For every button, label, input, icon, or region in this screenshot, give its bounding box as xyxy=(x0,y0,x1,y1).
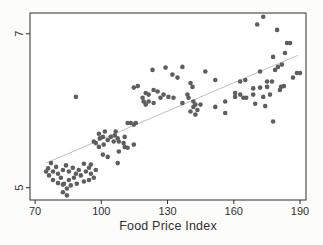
scatter-point xyxy=(71,165,76,170)
scatter-point xyxy=(74,172,79,177)
scatter-point xyxy=(265,79,270,84)
scatter-point xyxy=(49,161,54,166)
scatter-point xyxy=(213,78,218,83)
scatter-point xyxy=(273,68,278,73)
scatter-point xyxy=(82,162,87,167)
scatter-point xyxy=(61,190,66,195)
scatter-point xyxy=(143,102,148,107)
scatter-point xyxy=(255,22,260,27)
scatter-point xyxy=(261,95,266,100)
scatter-point xyxy=(132,85,137,90)
scatter-point xyxy=(67,178,72,183)
x-axis-title: Food Price Index xyxy=(30,219,306,233)
scatter-point xyxy=(271,55,276,60)
scatter-point xyxy=(82,179,87,184)
scatter-point xyxy=(166,95,171,100)
scatter-point xyxy=(278,88,283,93)
y-tick-label: 5 xyxy=(13,185,25,191)
scatter-point xyxy=(51,178,56,183)
scatter-point xyxy=(265,85,270,90)
scatter-point xyxy=(298,71,303,76)
scatter-point xyxy=(79,173,84,178)
scatter-point xyxy=(188,81,193,86)
scatter-point xyxy=(238,79,243,84)
scatter-point xyxy=(186,95,191,100)
scatter-point xyxy=(191,105,196,110)
scatter-point xyxy=(146,92,151,97)
scatter-point xyxy=(268,92,273,97)
scatter-point xyxy=(271,119,276,124)
scatter-point xyxy=(56,172,61,177)
scatter-point xyxy=(64,163,69,168)
scatter-point xyxy=(171,95,176,100)
scatter-point xyxy=(101,135,106,140)
scatter-point xyxy=(89,162,94,167)
scatter-point xyxy=(188,109,193,114)
scatter-point xyxy=(151,101,156,106)
scatter-point xyxy=(113,129,118,134)
scatter-point xyxy=(275,28,280,33)
scatter-point xyxy=(151,88,156,93)
scatter-point xyxy=(132,142,137,147)
scatter-point xyxy=(97,145,102,150)
scatter-point xyxy=(51,169,56,174)
scatter-point xyxy=(134,121,139,126)
scatter-point xyxy=(190,85,195,90)
scatter-point xyxy=(163,65,168,70)
scatter-point xyxy=(251,92,256,97)
scatter-point xyxy=(56,181,61,186)
scatter-point xyxy=(111,139,116,144)
scatter-plot-canvas: 7010013016019057 xyxy=(0,0,323,245)
scatter-point xyxy=(94,168,99,173)
scatter-point xyxy=(288,41,293,46)
scatter-point xyxy=(203,69,208,74)
scatter-point xyxy=(122,145,127,150)
scatter-point xyxy=(109,135,114,140)
scatter-point xyxy=(282,84,287,89)
x-tick-label: 70 xyxy=(29,205,41,217)
scatter-point xyxy=(69,183,74,188)
scatter-point xyxy=(87,178,92,183)
scatter-point xyxy=(263,104,268,109)
x-tick-label: 190 xyxy=(291,205,309,217)
scatter-point xyxy=(94,141,99,146)
scatter-point xyxy=(62,182,67,187)
x-tick-label: 100 xyxy=(92,205,110,217)
scatter-point xyxy=(54,165,59,170)
scatter-point xyxy=(47,173,52,178)
scatter-point xyxy=(72,175,77,180)
scatter-point xyxy=(122,135,127,140)
scatter-point xyxy=(67,169,72,174)
scatter-point xyxy=(136,84,141,89)
x-tick-label: 130 xyxy=(158,205,176,217)
scatter-point xyxy=(283,51,288,56)
scatter-point xyxy=(223,111,228,116)
scatter-point xyxy=(84,169,89,174)
scatter-point xyxy=(44,169,49,174)
scatter-point xyxy=(280,62,285,67)
scatter-point xyxy=(115,161,120,166)
scatter-point xyxy=(258,85,263,90)
scatter-point xyxy=(117,149,122,154)
scatter-point xyxy=(117,139,122,144)
x-tick-label: 160 xyxy=(225,205,243,217)
scatter-point xyxy=(253,102,258,107)
scatter-point xyxy=(213,105,218,110)
scatter-figure: 7010013016019057 Food Price Index xyxy=(0,0,323,245)
scatter-point xyxy=(291,75,296,80)
scatter-point xyxy=(244,95,249,100)
scatter-point xyxy=(105,155,110,160)
scatter-point xyxy=(270,79,275,84)
scatter-point xyxy=(198,102,203,107)
scatter-point xyxy=(158,95,163,100)
scatter-point xyxy=(74,95,79,100)
scatter-point xyxy=(233,91,238,96)
scatter-point xyxy=(59,175,64,180)
scatter-point xyxy=(101,152,106,157)
scatter-point xyxy=(155,89,160,94)
scatter-point xyxy=(195,108,200,113)
scatter-point xyxy=(180,65,185,70)
scatter-point xyxy=(150,68,155,73)
scatter-point xyxy=(97,132,102,137)
scatter-point xyxy=(261,14,266,19)
